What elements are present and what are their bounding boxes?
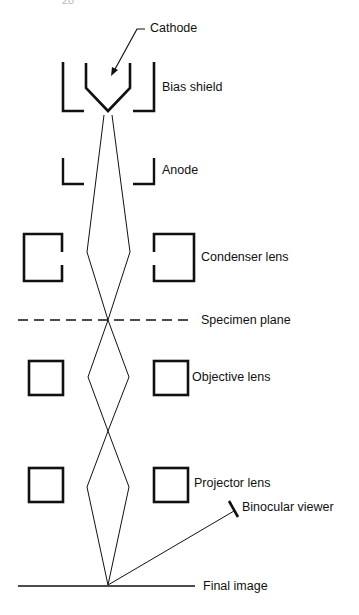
binocular-viewer-mark [229, 501, 238, 517]
label-objective-lens: Objective lens [192, 371, 271, 384]
condenser-lens [24, 234, 194, 281]
cathode-pointer [111, 29, 145, 76]
label-cathode: Cathode [150, 22, 197, 35]
binocular-ray [108, 511, 234, 585]
label-anode: Anode [162, 164, 198, 177]
objective-lens [29, 361, 188, 395]
electron-ray-paths [87, 115, 130, 585]
label-bias-shield: Bias shield [162, 81, 222, 94]
label-final-image: Final image [203, 580, 268, 593]
label-binocular-viewer: Binocular viewer [242, 501, 334, 514]
anode [63, 158, 154, 184]
label-specimen-plane: Specimen plane [201, 314, 291, 327]
label-projector-lens: Projector lens [194, 477, 270, 490]
projector-lens [29, 468, 188, 502]
label-condenser-lens: Condenser lens [201, 251, 289, 264]
cathode [86, 63, 130, 111]
bias-shield [63, 62, 154, 111]
